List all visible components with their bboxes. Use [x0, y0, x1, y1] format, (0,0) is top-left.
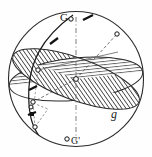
center-marker [74, 77, 79, 82]
node-marker-below [33, 125, 37, 129]
sphere-drawing [0, 0, 152, 157]
page-label-south-pole: G' [71, 136, 80, 146]
node-marker-right [115, 32, 119, 36]
node-marker-upper-l [36, 68, 40, 72]
node-marker-outer-l [29, 105, 33, 109]
node-marker-lower-l [31, 100, 35, 104]
pole-marker-Gp [65, 137, 69, 141]
filled-tick-square [30, 112, 34, 116]
pole-marker-G [69, 17, 73, 21]
page-label-plane-g: g [111, 108, 117, 120]
sphere-figure: G G' g [0, 0, 152, 157]
page-label-north-pole: G [60, 12, 68, 23]
